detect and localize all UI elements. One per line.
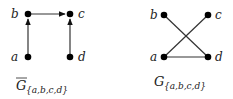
caption-main: G: [16, 78, 26, 93]
label-c: c: [78, 7, 85, 21]
node-b: [161, 12, 168, 19]
node-d: [205, 54, 212, 61]
node-c: [67, 11, 74, 18]
node-a: [25, 54, 32, 61]
node-b: [25, 11, 32, 18]
label-c: c: [215, 8, 222, 22]
caption-subscript: {a,b,c,d}: [164, 81, 206, 91]
graph-diagram: a b c d G {a,b,c,d} a b c d G {a,b,c,d}: [0, 0, 233, 99]
caption-subscript: {a,b,c,d}: [26, 85, 68, 95]
label-b: b: [11, 7, 19, 21]
graph: a b c d G {a,b,c,d}: [150, 8, 223, 91]
node-d: [67, 54, 74, 61]
label-b: b: [150, 8, 158, 22]
caption-main: G: [154, 74, 164, 89]
complement-graph: a b c d G {a,b,c,d}: [11, 7, 86, 95]
label-d: d: [78, 50, 86, 64]
label-a: a: [11, 50, 18, 64]
node-c: [205, 12, 212, 19]
node-a: [161, 54, 168, 61]
label-a: a: [150, 50, 157, 64]
label-d: d: [215, 50, 223, 64]
